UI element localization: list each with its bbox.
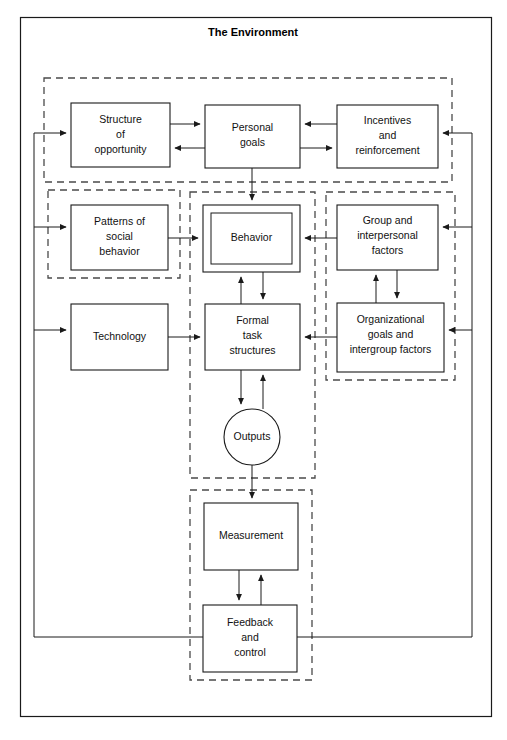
node-label-line: goals: [240, 136, 265, 148]
node-label-line: Organizational: [357, 313, 425, 325]
node-measurement[interactable]: Measurement: [204, 503, 298, 570]
node-label-line: Patterns of: [94, 215, 145, 227]
node-behavior[interactable]: Behavior: [203, 205, 300, 272]
node-outputs[interactable]: Outputs: [224, 409, 280, 465]
node-label-line: structures: [229, 344, 275, 356]
node-label-line: reinforcement: [355, 144, 419, 156]
node-label-line: Feedback: [227, 616, 274, 628]
page-title: The Environment: [208, 26, 298, 38]
node-technology[interactable]: Technology: [71, 304, 168, 370]
node-label-line: and: [379, 129, 397, 141]
node-label-line: and: [241, 631, 259, 643]
node-label-line: Behavior: [231, 231, 273, 243]
node-label-line: opportunity: [95, 143, 148, 155]
node-label-line: social: [106, 230, 133, 242]
node-label-line: Technology: [93, 330, 147, 342]
node-label-line: task: [243, 329, 263, 341]
environment-flow-diagram: The Environment: [0, 0, 507, 740]
node-label-line: intergroup factors: [350, 343, 432, 355]
node-organizational-goals-and-intergroup-factors[interactable]: Organizational goals and intergroup fact…: [337, 303, 444, 372]
node-feedback-and-control[interactable]: Feedback and control: [203, 605, 297, 672]
node-group-and-interpersonal-factors[interactable]: Group and interpersonal factors: [337, 205, 438, 270]
node-label-line: Outputs: [234, 430, 271, 442]
node-personal-goals[interactable]: Personal goals: [205, 105, 300, 168]
diagram-page: The Environment: [0, 0, 507, 740]
node-patterns-of-social-behavior[interactable]: Patterns of social behavior: [71, 205, 168, 270]
node-label-line: behavior: [99, 245, 140, 257]
node-label-line: Personal: [232, 121, 273, 133]
node-label-line: Incentives: [364, 114, 411, 126]
node-label-line: of: [116, 128, 125, 140]
node-label-line: Formal: [236, 314, 269, 326]
node-label-line: control: [234, 646, 266, 658]
node-incentives-and-reinforcement[interactable]: Incentives and reinforcement: [337, 105, 438, 168]
node-label-line: Measurement: [219, 529, 283, 541]
node-label-line: goals and: [368, 328, 414, 340]
node-label-line: factors: [372, 244, 404, 256]
node-label-line: Group and: [363, 214, 413, 226]
node-formal-task-structures[interactable]: Formal task structures: [205, 304, 300, 370]
node-label-line: interpersonal: [357, 229, 418, 241]
node-structure-of-opportunity[interactable]: Structure of opportunity: [71, 103, 170, 167]
node-label-line: Structure: [99, 113, 142, 125]
